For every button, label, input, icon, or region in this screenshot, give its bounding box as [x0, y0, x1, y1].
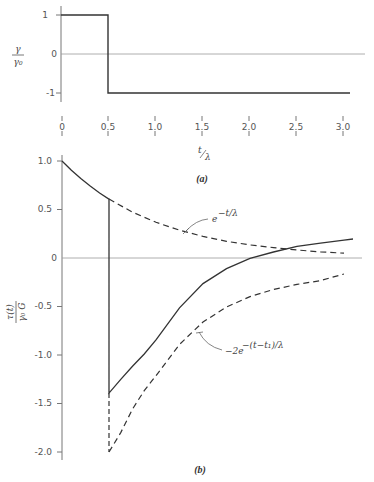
annotation-exp-decay: e −t/λ — [183, 208, 238, 234]
svg-text:λ: λ — [204, 152, 211, 162]
svg-text:γ: γ — [15, 44, 21, 54]
svg-text:γ₀: γ₀ — [14, 57, 23, 67]
svg-text:τ(t): τ(t) — [5, 304, 15, 320]
panel-a-ylabel: γ γ₀ — [12, 44, 24, 67]
xtick-2.0: 2.0 — [242, 122, 257, 132]
xtick-3.0: 3.0 — [336, 122, 351, 132]
panel-a: 1 0 -1 γ γ₀ 0 0.5 1.0 1.5 2.0 2.5 3. — [12, 6, 365, 185]
svg-text:−(t−t₁)/λ: −(t−t₁)/λ — [242, 340, 284, 350]
xtick-2.5: 2.5 — [289, 122, 303, 132]
svg-text:−2e: −2e — [225, 346, 244, 356]
svg-text:−t/λ: −t/λ — [218, 208, 238, 218]
xtick-1.0: 1.0 — [148, 122, 163, 132]
panel-b: 1.0 0.5 0 -0.5 -1.0 -1.5 -2.0 τ(t) γ₀ G … — [5, 155, 362, 476]
svg-text:e: e — [212, 214, 217, 224]
xtick-0.5: 0.5 — [101, 122, 115, 132]
panel-a-ytick-1: 1 — [42, 10, 48, 20]
svg-text:t: t — [198, 145, 202, 155]
panel-b-ytick-1.0: 1.0 — [38, 156, 53, 166]
panel-b-ytick-0: 0 — [51, 253, 57, 263]
svg-text:γ₀ G: γ₀ G — [17, 302, 27, 321]
panel-b-ytick-0.5: 0.5 — [38, 204, 52, 214]
neg-2-exp-dashed-curve — [109, 274, 344, 452]
xtick-0: 0 — [59, 122, 65, 132]
panel-b-caption: (b) — [194, 464, 206, 476]
panel-a-x-axis: 0 0.5 1.0 1.5 2.0 2.5 3.0 — [59, 116, 350, 136]
panel-a-ytick-neg1: -1 — [46, 88, 55, 98]
panel-b-ytick-neg0.5: -0.5 — [34, 301, 52, 311]
panel-a-caption: (a) — [196, 173, 208, 185]
panel-b-ytick-neg1.0: -1.0 — [34, 350, 52, 360]
panel-b-ytick-neg2.0: -2.0 — [34, 447, 52, 457]
xtick-1.5: 1.5 — [195, 122, 209, 132]
figure: 1 0 -1 γ γ₀ 0 0.5 1.0 1.5 2.0 2.5 3. — [0, 0, 374, 482]
response-curve-solid — [62, 161, 353, 393]
panel-a-xlabel: t λ — [198, 145, 211, 162]
panel-a-ytick-0: 0 — [51, 49, 57, 59]
panel-b-ylabel: τ(t) γ₀ G — [5, 301, 27, 323]
annotation-neg-2-exp: −2e −(t−t₁)/λ — [196, 332, 284, 356]
panel-b-ytick-neg1.5: -1.5 — [34, 398, 52, 408]
